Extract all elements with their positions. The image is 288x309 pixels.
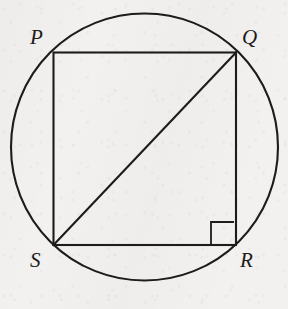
vertex-label-q: Q	[242, 27, 257, 48]
right-angle-mark-r	[211, 222, 234, 245]
vertex-label-r: R	[240, 250, 253, 271]
vertex-label-s: S	[30, 250, 41, 271]
diagonal-sq	[54, 53, 237, 246]
vertex-label-p: P	[30, 27, 43, 48]
geometry-figure: P Q R S	[0, 0, 288, 309]
